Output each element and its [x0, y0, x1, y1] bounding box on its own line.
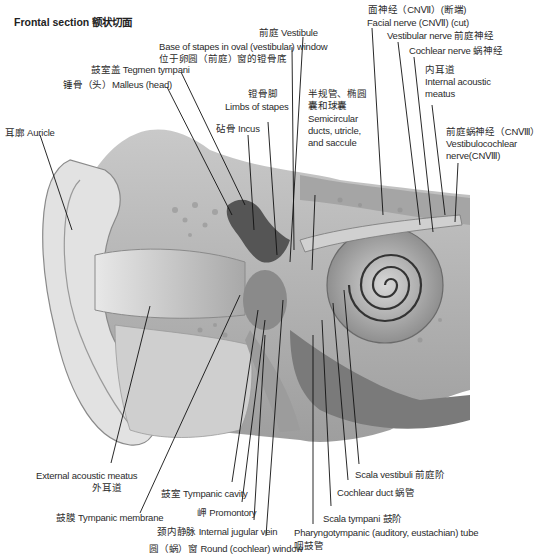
label-external-acoustic-en: External acoustic meatus [36, 470, 137, 482]
label-cochlear-nerve: Cochlear nerve 蜗神经 [409, 45, 502, 57]
figure-title: Frontal section 额状切面 [14, 14, 132, 29]
label-facial-nerve-en: Facial nerve (CNⅦ) (cut) [367, 17, 469, 29]
label-semicircular-zh-1: 半规管、椭圆 [308, 88, 367, 100]
label-semicircular-zh-2: 囊和球囊 [308, 100, 347, 112]
label-incus: 砧骨 Incus [216, 123, 260, 135]
label-scala-tympani: Scala tympani 鼓阶 [323, 513, 402, 525]
label-internal-acoustic-en-2: meatus [425, 88, 455, 100]
label-internal-jugular-vein: 颈内静脉 Internal jugular vein [157, 526, 277, 538]
label-pharyngotympanic-zh: 咽鼓管 [294, 540, 323, 552]
label-malleus-head: 锤骨（头）Malleus (head) [63, 79, 172, 91]
label-limbs-of-stapes-zh: 镫骨脚 [248, 88, 277, 100]
label-vestibule: 前庭 Vestibule [259, 27, 318, 39]
label-vestibulocochlear-en-2: nerve(CNⅧ) [446, 150, 500, 162]
label-promontory: 岬 Promontory [197, 507, 256, 519]
label-vestibulocochlear-en-1: Vestibulocochlear [446, 138, 517, 150]
label-internal-acoustic-en-1: Internal acoustic [425, 76, 491, 88]
label-tympanic-cavity: 鼓室 Tympanic cavity [161, 488, 248, 500]
label-internal-acoustic-zh: 内耳道 [425, 64, 454, 76]
label-scala-vestibuli: Scala vestibuli 前庭阶 [355, 469, 445, 481]
label-tympanic-membrane: 鼓膜 Tympanic membrane [56, 512, 163, 524]
label-cochlear-duct: Cochlear duct 蜗管 [337, 487, 415, 499]
label-pharyngotympanic-en: Pharyngotympanic (auditory, eustachian) … [294, 527, 478, 539]
label-base-of-stapes-en: Base of stapes in oval (vestibular) wind… [159, 41, 328, 53]
label-semicircular-en-2: ducts, utricle, [308, 125, 361, 137]
label-auricle: 耳廓 Auricle [5, 127, 55, 139]
label-facial-nerve-zh: 面神经（CNⅦ）(断端) [368, 4, 466, 16]
label-external-acoustic-zh: 外耳道 [92, 482, 121, 494]
label-semicircular-en-1: Semicircular [308, 113, 358, 125]
label-tegmen-tympani: 鼓室盖 Tegmen tympani [91, 64, 190, 76]
label-vestibular-nerve: Vestibular nerve 前庭神经 [387, 30, 494, 42]
label-vestibulocochlear-zh: 前庭蜗神经（CNⅧ） [446, 126, 534, 138]
parotid-tissue [115, 325, 252, 438]
external-acoustic-meatus-shape [95, 249, 245, 318]
label-round-window: 圆（蜗）窗 Round (cochlear) window [149, 543, 303, 555]
label-semicircular-en-3: and saccule [308, 137, 357, 149]
label-limbs-of-stapes-en: Limbs of stapes [225, 101, 289, 113]
